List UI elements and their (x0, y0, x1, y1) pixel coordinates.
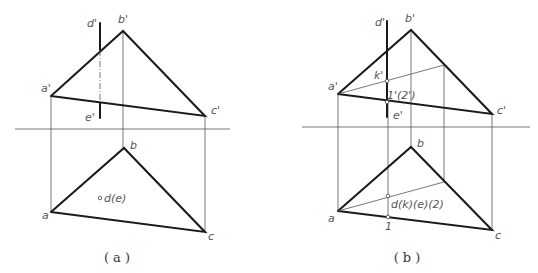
label-k-prime: k' (374, 69, 383, 82)
label-a-prime: a' (41, 82, 51, 95)
label-dkee2: d(k)(e)(2) (391, 198, 444, 211)
figure-b: d' b' a' c' k' 1'(2') e' b a c d(k)(e)(2… (302, 12, 530, 265)
label-b: b (130, 139, 137, 152)
label-c: c (208, 230, 214, 243)
label-1-2-prime: 1'(2') (387, 89, 416, 102)
projection-diagram: d' b' a' c' e' b a c d(e) ( a ) (0, 0, 538, 273)
label-b-prime: b' (405, 12, 415, 25)
label-d-prime: d' (375, 16, 385, 29)
point-k-prime (385, 79, 389, 83)
label-c-prime: c' (497, 104, 506, 117)
label-c: c (495, 229, 501, 242)
triangle-front-view-a (51, 31, 205, 116)
label-a: a (328, 212, 335, 225)
point-dke2 (386, 194, 390, 198)
figure-a: d' b' a' c' e' b a c d(e) ( a ) (15, 13, 230, 265)
label-e-prime: e' (393, 109, 403, 122)
label-c-prime: c' (211, 104, 220, 117)
label-de: d(e) (104, 192, 126, 205)
label-a: a (42, 209, 49, 222)
label-e-prime: e' (85, 111, 95, 124)
point-de-top (98, 196, 102, 200)
label-1: 1 (385, 220, 392, 233)
label-b: b (417, 137, 424, 150)
caption-b: ( b ) (394, 250, 421, 265)
point-1 (386, 215, 390, 219)
label-b-prime: b' (118, 13, 128, 26)
triangle-top-view-b (338, 147, 492, 230)
label-a-prime: a' (328, 80, 338, 93)
label-d-prime: d' (87, 17, 97, 30)
caption-a: ( a ) (104, 250, 130, 265)
triangle-top-view-a (51, 148, 205, 232)
